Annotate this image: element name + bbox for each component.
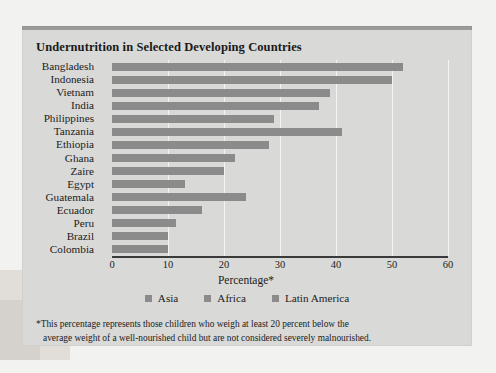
x-tick-30: 30: [275, 259, 286, 270]
bar-guatemala: [112, 193, 246, 201]
gridline-50: [392, 60, 393, 256]
category-label-philippines: Philippines: [44, 113, 94, 124]
chart-legend: AsiaAfricaLatin America: [36, 292, 458, 304]
bar-ghana: [112, 154, 235, 162]
legend-label: Asia: [158, 292, 179, 304]
category-label-indonesia: Indonesia: [51, 74, 95, 85]
chart-footnote: *This percentage represents those childr…: [36, 318, 460, 345]
plot-area: BangladeshIndonesiaVietnamIndiaPhilippin…: [36, 60, 456, 256]
category-label-vietnam: Vietnam: [56, 87, 94, 98]
category-label-colombia: Colombia: [50, 244, 94, 255]
footnote-line-1: *This percentage represents those childr…: [36, 319, 349, 329]
x-tick-50: 50: [387, 259, 398, 270]
bar-egypt: [112, 180, 185, 188]
category-label-egypt: Egypt: [67, 179, 94, 190]
x-tick-40: 40: [331, 259, 342, 270]
gridline-40: [336, 60, 337, 256]
bar-ethiopia: [112, 141, 269, 149]
bar-philippines: [112, 115, 274, 123]
category-label-ethiopia: Ethiopia: [56, 139, 94, 150]
category-axis-labels: BangladeshIndonesiaVietnamIndiaPhilippin…: [36, 60, 98, 256]
legend-label: Africa: [217, 292, 246, 304]
legend-swatch-icon: [272, 295, 279, 302]
legend-swatch-icon: [204, 295, 211, 302]
category-label-ghana: Ghana: [65, 153, 94, 164]
legend-label: Latin America: [285, 292, 349, 304]
category-label-guatemala: Guatemala: [46, 192, 94, 203]
bar-zaire: [112, 167, 224, 175]
legend-item-africa[interactable]: Africa: [204, 292, 246, 304]
bar-indonesia: [112, 76, 392, 84]
category-label-peru: Peru: [73, 218, 94, 229]
bar-colombia: [112, 245, 168, 253]
bar-bangladesh: [112, 63, 403, 71]
category-label-ecuador: Ecuador: [57, 205, 94, 216]
x-tick-0: 0: [109, 259, 114, 270]
chart-title: Undernutrition in Selected Developing Co…: [36, 40, 302, 55]
footnote-line-2: average weight of a well-nourished child…: [36, 332, 460, 346]
x-tick-10: 10: [163, 259, 174, 270]
chart-panel: Undernutrition in Selected Developing Co…: [22, 26, 472, 346]
bar-ecuador: [112, 206, 202, 214]
bar-india: [112, 102, 319, 110]
category-label-tanzania: Tanzania: [54, 126, 94, 137]
bars-container: [112, 60, 448, 256]
legend-item-latin-america[interactable]: Latin America: [272, 292, 349, 304]
gridline-60: [448, 60, 449, 256]
bar-vietnam: [112, 89, 330, 97]
bar-brazil: [112, 232, 168, 240]
legend-swatch-icon: [145, 295, 152, 302]
legend-item-asia[interactable]: Asia: [145, 292, 179, 304]
category-label-bangladesh: Bangladesh: [42, 61, 94, 72]
bar-peru: [112, 219, 176, 227]
category-label-zaire: Zaire: [70, 166, 94, 177]
x-tick-60: 60: [443, 259, 454, 270]
category-label-brazil: Brazil: [67, 231, 94, 242]
bar-tanzania: [112, 128, 342, 136]
category-label-india: India: [71, 100, 94, 111]
x-axis-line: [112, 256, 448, 258]
x-axis-title: Percentage*: [36, 274, 456, 286]
x-tick-20: 20: [219, 259, 230, 270]
